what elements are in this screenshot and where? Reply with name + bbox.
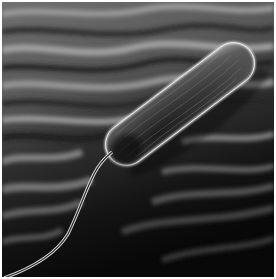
micrograph-scene [2,2,274,277]
micrograph [2,2,274,277]
image-frame [0,0,276,279]
